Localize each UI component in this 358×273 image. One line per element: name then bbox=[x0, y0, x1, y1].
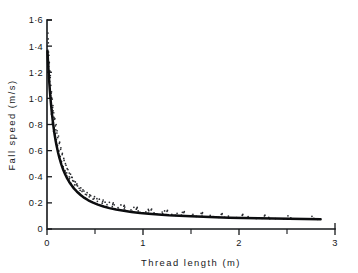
data-point bbox=[55, 125, 57, 127]
data-point bbox=[60, 148, 62, 150]
data-point bbox=[71, 177, 73, 179]
data-point bbox=[81, 191, 83, 193]
data-point bbox=[70, 173, 72, 175]
data-point bbox=[58, 135, 60, 137]
data-point bbox=[67, 169, 69, 171]
data-point bbox=[311, 215, 313, 217]
data-point bbox=[200, 212, 202, 214]
data-point bbox=[109, 202, 111, 204]
data-point bbox=[287, 215, 289, 217]
data-point bbox=[90, 195, 92, 197]
data-point bbox=[183, 212, 185, 214]
data-point bbox=[176, 212, 178, 214]
data-point bbox=[80, 187, 82, 189]
data-point bbox=[74, 184, 76, 186]
data-point bbox=[65, 164, 67, 166]
y-tick-label: 1·4 bbox=[29, 42, 43, 52]
data-point bbox=[147, 209, 149, 211]
fit-curve-path bbox=[47, 51, 320, 219]
data-point bbox=[112, 203, 114, 205]
data-point bbox=[68, 176, 70, 178]
x-tick-label: 1 bbox=[140, 238, 145, 248]
data-point bbox=[56, 132, 58, 134]
data-point bbox=[117, 207, 119, 209]
y-axis-ticks: 00·20·40·60·81·01·21·41·6 bbox=[29, 15, 52, 234]
data-point bbox=[133, 206, 135, 208]
data-point bbox=[101, 202, 103, 204]
x-tick-label: 0 bbox=[44, 238, 49, 248]
data-point bbox=[97, 200, 99, 202]
data-point bbox=[88, 196, 90, 198]
data-point bbox=[123, 208, 125, 210]
data-point bbox=[150, 209, 152, 211]
data-points bbox=[47, 32, 319, 220]
data-point bbox=[63, 158, 65, 160]
data-point bbox=[192, 214, 194, 216]
y-tick-label: 0·6 bbox=[29, 146, 43, 156]
data-point bbox=[164, 210, 166, 212]
y-tick-label: 1·2 bbox=[29, 68, 43, 78]
y-tick-label: 1·6 bbox=[29, 15, 43, 25]
x-axis-label: Thread length (m) bbox=[141, 257, 241, 268]
y-tick-label: 0·2 bbox=[29, 198, 43, 208]
y-tick-label: 0·4 bbox=[29, 172, 43, 182]
data-point bbox=[61, 154, 63, 156]
x-tick-label: 3 bbox=[332, 238, 337, 248]
data-point bbox=[78, 187, 80, 189]
data-point bbox=[47, 32, 49, 34]
data-point bbox=[242, 214, 244, 216]
data-point bbox=[47, 42, 49, 44]
y-tick-label: 1·0 bbox=[29, 94, 43, 104]
fitted-curve bbox=[47, 51, 320, 219]
data-point bbox=[57, 137, 59, 139]
x-tick-label: 2 bbox=[236, 238, 241, 248]
data-point bbox=[102, 199, 104, 201]
axis-spine bbox=[47, 20, 335, 229]
data-point bbox=[72, 180, 74, 182]
x-axis-ticks: 0123 bbox=[44, 229, 337, 248]
data-point bbox=[136, 208, 138, 210]
data-point bbox=[65, 163, 67, 165]
data-point bbox=[104, 201, 106, 203]
data-point bbox=[264, 215, 266, 217]
data-point bbox=[63, 160, 65, 162]
data-point bbox=[96, 198, 98, 200]
data-point bbox=[86, 192, 88, 194]
y-axis-label: Fall speed (m/s) bbox=[6, 79, 17, 170]
data-point bbox=[161, 211, 163, 213]
data-point bbox=[74, 181, 76, 183]
data-point bbox=[182, 211, 184, 213]
data-point bbox=[83, 190, 85, 192]
data-point bbox=[120, 204, 122, 206]
data-point bbox=[47, 38, 49, 40]
data-point bbox=[111, 205, 113, 207]
data-point bbox=[98, 198, 100, 200]
data-point bbox=[220, 213, 222, 215]
data-point bbox=[86, 194, 88, 196]
data-point bbox=[77, 185, 79, 187]
data-point bbox=[76, 183, 78, 185]
data-point bbox=[166, 211, 168, 213]
fall-speed-vs-thread-length-chart: 00·20·40·60·81·01·21·41·6 0123 Fall spee… bbox=[0, 0, 358, 273]
axes bbox=[47, 20, 335, 229]
y-tick-label: 0 bbox=[38, 224, 43, 234]
data-point bbox=[58, 143, 60, 145]
data-point bbox=[123, 205, 125, 207]
data-point bbox=[69, 177, 71, 179]
data-point bbox=[79, 189, 81, 191]
y-tick-label: 0·8 bbox=[29, 120, 43, 130]
data-point bbox=[60, 147, 62, 149]
data-point bbox=[106, 204, 108, 206]
data-point bbox=[93, 198, 95, 200]
data-point bbox=[102, 201, 104, 203]
data-point bbox=[94, 196, 96, 198]
chart-figure: 00·20·40·60·81·01·21·41·6 0123 Fall spee… bbox=[0, 0, 358, 273]
